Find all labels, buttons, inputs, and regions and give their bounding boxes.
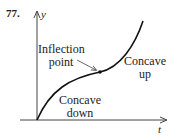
problem-number: 77. [6, 7, 20, 19]
concave-up-label: Concave up [122, 55, 168, 81]
inflection-label: Inflection point [38, 43, 84, 69]
y-axis-label: y [41, 8, 46, 20]
x-axis-label: t [158, 123, 161, 135]
inflection-point-dot [98, 70, 102, 74]
concave-down-label: Concave down [57, 94, 103, 120]
